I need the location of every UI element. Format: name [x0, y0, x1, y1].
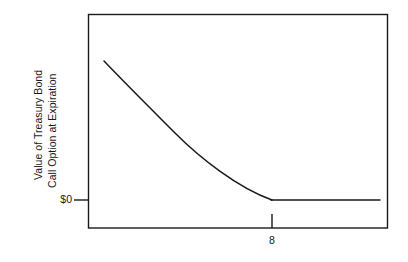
- figure-canvas: Value of Treasury Bond Call Option at Ex…: [0, 0, 408, 262]
- y-axis-label-line-2: Call Option at Expiration: [47, 74, 58, 188]
- y-axis-tick-label-wrap: $0: [50, 194, 72, 206]
- option-value-curve: [104, 61, 272, 200]
- x-axis-tick-label-wrap: 8: [262, 234, 282, 247]
- plot-frame: [89, 15, 388, 229]
- x-axis-tick-label-strike: 8: [262, 234, 282, 246]
- y-axis-tick-label-zero: $0: [60, 194, 72, 205]
- y-axis-label-group: Value of Treasury Bond Call Option at Ex…: [0, 0, 86, 228]
- y-axis-label-line-1: Value of Treasury Bond: [33, 70, 44, 180]
